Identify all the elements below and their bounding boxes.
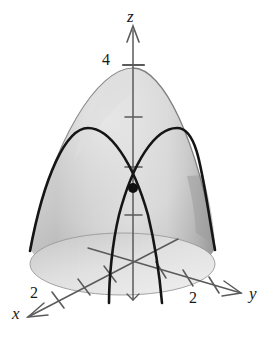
paraboloid-surface [30,68,215,295]
y-axis-label: y [249,285,257,302]
z-axis-label: z [127,8,134,25]
z-tick-label-4: 4 [102,52,110,68]
x-axis-arrowhead [28,303,48,317]
x-tick-label-2: 2 [30,285,38,301]
base-disk [30,233,215,295]
x-axis-label: x [12,305,20,322]
plot-canvas [0,0,275,354]
y-tick-2 [209,277,219,293]
intersection-point [128,183,138,193]
surface-plot-figure: z x y 4 2 2 [0,0,275,354]
y-tick-label-2: 2 [189,290,197,306]
